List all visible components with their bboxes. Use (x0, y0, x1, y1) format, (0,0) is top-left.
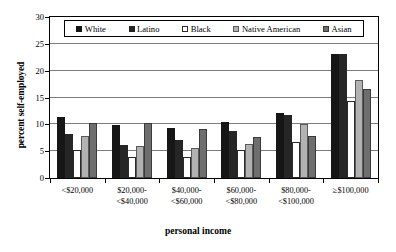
bar-chart: percent self-employed 051015202530 <$20,… (0, 0, 396, 252)
y-axis-tick-label: 10 (18, 120, 44, 128)
bar-asian[interactable] (89, 123, 97, 178)
legend-item-asian[interactable]: Asian (323, 24, 352, 34)
legend-item-native-american[interactable]: Native American (233, 24, 300, 34)
bar-white[interactable] (221, 122, 229, 178)
bar-black[interactable] (347, 101, 355, 178)
bar-white[interactable] (331, 54, 339, 178)
bar-native-american[interactable] (191, 148, 199, 178)
y-axis-tick-label: 5 (18, 147, 44, 155)
bar-black[interactable] (73, 150, 81, 178)
x-axis-tick-label: $20,000-<$40,000 (105, 186, 160, 207)
bar-white[interactable] (167, 128, 175, 178)
bar-group (50, 17, 105, 178)
bar-latino[interactable] (175, 140, 183, 178)
legend-item-latino[interactable]: Latino (129, 24, 160, 34)
legend-swatch-icon (323, 26, 329, 32)
bar-black[interactable] (128, 157, 136, 178)
bar-native-american[interactable] (245, 144, 253, 178)
legend-swatch-icon (182, 26, 188, 32)
legend-item-white[interactable]: White (76, 24, 106, 34)
x-axis-tick-mark (214, 179, 215, 183)
legend-label: Native American (242, 24, 300, 34)
bar-black[interactable] (237, 150, 245, 178)
bar-asian[interactable] (363, 89, 371, 178)
legend-swatch-icon (129, 26, 135, 32)
legend-item-black[interactable]: Black (182, 24, 211, 34)
bar-latino[interactable] (120, 145, 128, 178)
y-axis-tick-label: 30 (18, 13, 44, 21)
x-axis-tick-label: <$20,000 (50, 186, 105, 207)
legend-swatch-icon (76, 26, 82, 32)
bar-latino[interactable] (339, 54, 347, 179)
bar-asian[interactable] (253, 137, 261, 178)
bar-native-american[interactable] (355, 80, 363, 178)
bar-group (159, 17, 214, 178)
legend-label: White (85, 24, 106, 34)
y-axis-tick-label: 20 (18, 67, 44, 75)
bar-latino[interactable] (284, 115, 292, 178)
x-axis-tick-label: $60,000-<$80,000 (214, 186, 269, 207)
legend-swatch-icon (233, 26, 239, 32)
bar-white[interactable] (276, 113, 284, 178)
x-axis-tick-mark (323, 179, 324, 183)
x-axis-tick-label: $80,000-<$100,000 (269, 186, 324, 207)
bar-asian[interactable] (308, 136, 316, 178)
x-axis-tick-label: ≥$100,000 (323, 186, 378, 207)
bar-group (105, 17, 160, 178)
x-axis-tick-mark (159, 179, 160, 183)
legend-label: Asian (332, 24, 352, 34)
bar-asian[interactable] (144, 123, 152, 178)
bar-group (214, 17, 269, 178)
bar-latino[interactable] (229, 131, 237, 178)
x-axis-tick-mark (269, 179, 270, 183)
y-axis-tick-label: 25 (18, 40, 44, 48)
bar-group (269, 17, 324, 178)
y-axis-tick-label: 0 (18, 174, 44, 182)
chart-legend: WhiteLatinoBlackNative AmericanAsian (64, 20, 364, 37)
bar-native-american[interactable] (81, 136, 89, 178)
x-axis-tick-mark (378, 179, 379, 183)
x-axis-title: personal income (0, 226, 396, 236)
bar-native-american[interactable] (300, 124, 308, 178)
bar-white[interactable] (112, 125, 120, 178)
x-axis-tick-labels: <$20,000$20,000-<$40,000$40,000-<$60,000… (50, 186, 378, 207)
legend-label: Latino (137, 24, 159, 34)
bar-group (323, 17, 378, 178)
bar-native-american[interactable] (136, 146, 144, 178)
bar-asian[interactable] (199, 129, 207, 178)
legend-label: Black (191, 24, 211, 34)
bar-latino[interactable] (65, 134, 73, 178)
x-axis-tick-mark (50, 179, 51, 183)
bar-white[interactable] (57, 117, 65, 178)
bar-black[interactable] (292, 142, 300, 178)
bar-groups (50, 17, 378, 178)
x-axis-tick-label: $40,000-<$60,000 (159, 186, 214, 207)
x-axis-tick-mark (105, 179, 106, 183)
y-axis-tick-label: 15 (18, 94, 44, 102)
bar-black[interactable] (183, 157, 191, 178)
